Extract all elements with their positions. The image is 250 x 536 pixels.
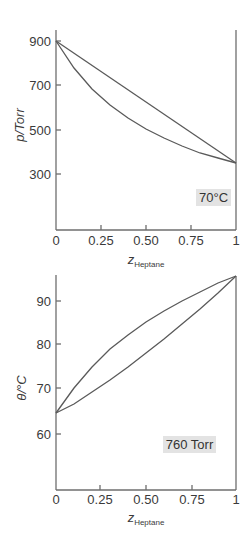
top-y-tick-900: 900 — [29, 34, 51, 49]
pressure-annotation: 760 Torr — [166, 437, 214, 452]
liquid-line — [56, 41, 236, 163]
bottom-y-tick-70: 70 — [37, 381, 51, 396]
bottom-y-tick-60: 60 — [37, 427, 51, 442]
top-x-tick-0: 0 — [52, 233, 59, 248]
temperature-annotation: 70°C — [199, 190, 228, 205]
top-x-tick-025: 0.25 — [88, 233, 113, 248]
bottom-x-axis-title: zHeptane — [127, 510, 165, 527]
bottom-x-tick-025: 0.25 — [87, 492, 112, 507]
top-y-tick-300: 300 — [29, 167, 51, 182]
top-y-axis-title: p/Torr — [12, 108, 27, 143]
top-x-axis-title: zHeptane — [127, 252, 165, 269]
bottom-x-tick-075: 0.75 — [179, 492, 204, 507]
top-x-tick-1: 1 — [232, 233, 239, 248]
bottom-x-tick-050: 0.50 — [133, 492, 158, 507]
pressure-composition-chart: 900 700 500 300 0 0.25 0.50 0.75 1 zHept… — [12, 30, 240, 269]
bottom-y-tick-90: 90 — [37, 294, 51, 309]
phase-diagrams: 900 700 500 300 0 0.25 0.50 0.75 1 zHept… — [0, 0, 250, 536]
temperature-composition-chart: 90 80 70 60 0 0.25 0.50 0.75 1 zHeptane … — [14, 275, 240, 527]
top-x-tick-075: 0.75 — [178, 233, 203, 248]
dew-curve — [56, 276, 236, 413]
top-y-tick-500: 500 — [29, 123, 51, 138]
bottom-y-tick-80: 80 — [37, 337, 51, 352]
top-y-tick-700: 700 — [29, 78, 51, 93]
bottom-x-tick-1: 1 — [232, 492, 239, 507]
top-x-tick-050: 0.50 — [133, 233, 158, 248]
bubble-curve — [56, 276, 236, 413]
bottom-y-axis-title: θ/°C — [14, 375, 29, 401]
bottom-x-tick-0: 0 — [52, 492, 59, 507]
